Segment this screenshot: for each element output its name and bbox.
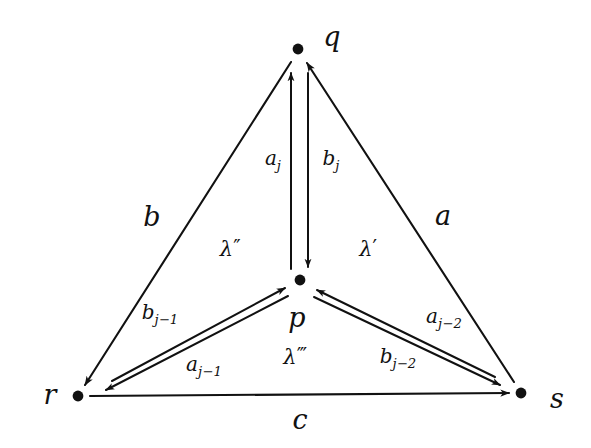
region-label-lambda-single-prime-base: λ <box>359 237 372 261</box>
edge-label-b-j-1-sub: j−1 <box>154 312 178 327</box>
edge-label-a-j-2: aj−2 <box>426 306 462 329</box>
region-label-lambda-double-prime-marks: ″ <box>233 235 240 259</box>
outer-edge-b <box>85 62 291 385</box>
vertex-label-s: s <box>550 385 564 412</box>
edge-label-a-j-1-base: a <box>186 352 198 376</box>
edge-label-a-j-2-sub: j−2 <box>438 316 462 331</box>
outer-edge-a <box>307 63 514 382</box>
edge-label-a-j-1: aj−1 <box>186 354 222 377</box>
edge-label-b-j-1: bj−1 <box>142 302 179 325</box>
edge-label-b-j: bj <box>322 148 339 171</box>
vertex-label-p: p <box>288 304 305 331</box>
edge-label-b-j-1-base: b <box>142 300 155 324</box>
vertex-dot-q <box>293 44 304 55</box>
edge-label-a-j: aj <box>265 148 281 171</box>
edge-label-a-j-base: a <box>265 146 277 170</box>
edge-label-c: c <box>292 406 307 433</box>
vertex-dot-p <box>295 275 306 286</box>
vertex-label-r: r <box>44 381 57 408</box>
region-label-lambda-triple-prime-base: λ <box>283 345 296 369</box>
region-label-lambda-triple-prime-marks: ‴ <box>297 343 307 367</box>
region-label-lambda-triple-prime: λ‴ <box>283 346 306 368</box>
outer-edge-c <box>90 393 509 396</box>
edge-label-b: b <box>143 203 160 230</box>
region-label-lambda-double-prime-base: λ <box>220 237 233 261</box>
region-label-lambda-single-prime: λ′ <box>359 238 376 260</box>
edge-label-a-j-1-sub: j−1 <box>198 364 222 379</box>
diagram-vector-layer <box>0 0 591 448</box>
edge-label-b-j-base: b <box>322 146 335 170</box>
edge-label-a-j-sub: j <box>277 158 281 173</box>
region-label-lambda-double-prime: λ″ <box>220 238 240 260</box>
vertex-label-q: q <box>323 23 340 50</box>
edge-label-b-j-2-base: b <box>380 344 393 368</box>
region-label-lambda-single-prime-marks: ′ <box>373 235 377 259</box>
vertex-dot-s <box>516 388 527 399</box>
diagram-canvas: q p r s b a c aj bj bj−1 aj−1 aj−2 bj−2 … <box>0 0 591 448</box>
edge-label-a: a <box>435 202 451 229</box>
inner-edge-b-j-2 <box>314 297 500 385</box>
edge-label-b-j-2: bj−2 <box>380 346 417 369</box>
edge-label-a-j-2-base: a <box>426 304 438 328</box>
edge-label-b-j-2-sub: j−2 <box>392 356 416 371</box>
edge-label-b-j-sub: j <box>335 158 339 173</box>
vertex-dot-r <box>73 391 84 402</box>
